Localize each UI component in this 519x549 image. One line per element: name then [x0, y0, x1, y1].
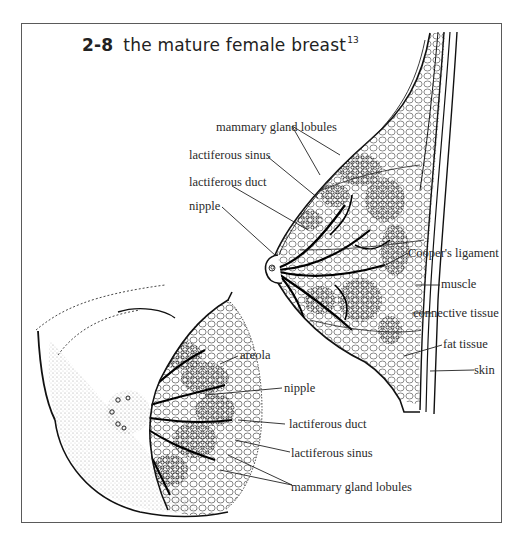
side-view-illustration	[260, 30, 457, 420]
label-front-mammary-gland-lobules: mammary gland lobules	[291, 481, 412, 494]
label-skin: skin	[474, 364, 495, 377]
label-front-lactiferous-duct: lactiferous duct	[289, 418, 366, 431]
label-side-nipple: nipple	[189, 200, 220, 213]
label-coopers-ligament: Cooper's ligament	[408, 247, 499, 260]
label-side-mammary-gland-lobules: mammary gland lobules	[216, 121, 337, 134]
label-front-areola: areola	[240, 349, 271, 362]
label-front-lactiferous-sinus: lactiferous sinus	[291, 447, 373, 460]
label-side-lactiferous-sinus: lactiferous sinus	[189, 149, 271, 162]
label-side-lactiferous-duct: lactiferous duct	[189, 176, 266, 189]
label-connective-tissue: connective tissue	[413, 307, 499, 320]
label-fat-tissue: fat tissue	[443, 338, 488, 351]
front-view-illustration	[36, 285, 270, 520]
label-front-nipple: nipple	[284, 382, 315, 395]
label-muscle: muscle	[441, 278, 476, 291]
